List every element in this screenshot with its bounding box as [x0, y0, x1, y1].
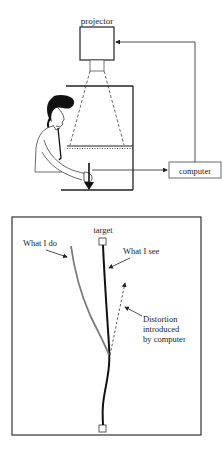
projector-label: projector — [81, 16, 113, 26]
distortion-label-line3: by computer — [143, 334, 186, 344]
projection-ray-left — [70, 71, 90, 145]
stylus-arrow-icon — [84, 182, 94, 190]
trajectory-panel: target What I do What I see Distortion i… — [12, 217, 201, 435]
signal-to-projector — [116, 42, 195, 162]
distortion-label-line2: introduced — [143, 324, 180, 334]
setup-illustration: projector — [35, 16, 221, 190]
projector-box — [80, 27, 114, 60]
target-label: target — [93, 225, 113, 235]
computer-label: computer — [179, 166, 211, 176]
target-square — [99, 238, 106, 245]
distortion-label-line1: Distortion — [143, 314, 178, 324]
projection-ray-right — [104, 71, 124, 145]
person-figure — [35, 95, 92, 182]
what-i-do-label: What I do — [23, 238, 57, 248]
start-square — [99, 425, 106, 432]
projector-lens — [90, 60, 104, 71]
what-i-see-label: What I see — [123, 246, 160, 256]
diagram-canvas: projector — [0, 0, 223, 450]
